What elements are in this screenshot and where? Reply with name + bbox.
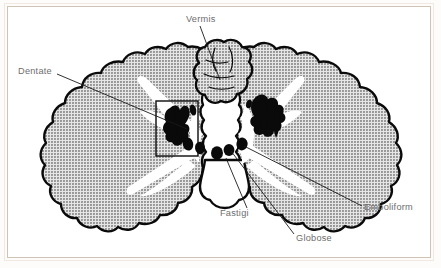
cerebellum-diagram: Vermis Dentate Fastigi Globose Embolifor… (0, 0, 441, 268)
label-globose: Globose (296, 233, 332, 243)
right-fastigial-nucleus (224, 144, 235, 156)
label-vermis: Vermis (186, 14, 216, 24)
label-fastigi: Fastigi (220, 208, 249, 218)
figure-page: Vermis Dentate Fastigi Globose Embolifor… (0, 0, 441, 268)
label-emboliform: Emboliform (364, 202, 413, 212)
left-fastigial-nucleus (211, 146, 223, 160)
cerebellum-body (41, 40, 402, 231)
label-dentate: Dentate (18, 66, 52, 76)
